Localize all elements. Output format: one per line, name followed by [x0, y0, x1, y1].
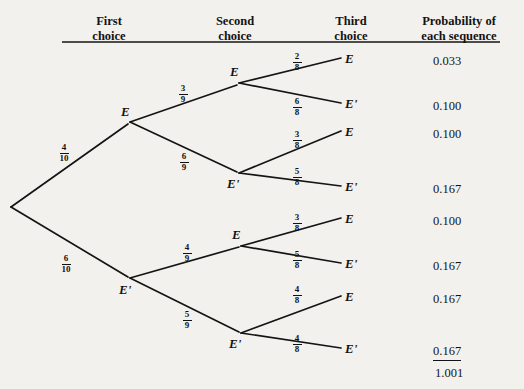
frac-third-1: 28 [288, 52, 306, 72]
column-header-1: First choice [78, 14, 140, 44]
frac-third-6: 58 [288, 250, 306, 270]
frac-third-4-numerator: 5 [288, 167, 306, 177]
frac-second-EEnot-numerator: 6 [175, 152, 193, 162]
frac-second-EnotEnot: 59 [178, 310, 196, 330]
frac-third-7-denominator: 8 [288, 296, 306, 306]
frac-second-EEnot-denominator: 9 [175, 163, 193, 173]
leaf-7: E [345, 289, 354, 305]
frac-first-Enot-denominator: 10 [57, 265, 75, 275]
leaf-3: E [345, 124, 354, 140]
frac-second-EEnot: 69 [175, 152, 193, 172]
node-label-first-E: E [121, 104, 130, 120]
frac-third-3-numerator: 3 [288, 130, 306, 140]
edge-root-E [11, 124, 128, 207]
prob-8: 0.167 [433, 344, 461, 361]
frac-third-8-numerator: 4 [288, 334, 306, 344]
frac-second-EE: 39 [174, 84, 192, 104]
frac-third-2-numerator: 6 [288, 97, 306, 107]
node-label-second-EnotEnot: E' [229, 336, 241, 352]
prob-6: 0.167 [433, 259, 461, 274]
frac-third-8-denominator: 8 [288, 345, 306, 355]
node-label-second-EnotE: E [232, 227, 241, 243]
frac-second-EE-denominator: 9 [174, 95, 192, 105]
leaf-1: E [345, 51, 354, 67]
node-label-second-EE: E [230, 64, 239, 80]
frac-first-Enot: 610 [57, 254, 75, 274]
frac-second-EnotEnot-denominator: 9 [178, 321, 196, 331]
probability-tree-diagram: First choiceSecond choiceThird choicePro… [0, 0, 524, 389]
frac-second-EnotE-denominator: 9 [178, 254, 196, 264]
frac-third-6-numerator: 5 [288, 250, 306, 260]
frac-third-3: 38 [288, 130, 306, 150]
node-label-first-Enot: E' [119, 282, 131, 298]
frac-third-7-numerator: 4 [288, 285, 306, 295]
leaf-2: E' [345, 96, 357, 112]
frac-third-6-denominator: 8 [288, 261, 306, 271]
frac-third-3-denominator: 8 [288, 141, 306, 151]
prob-4: 0.167 [433, 182, 461, 197]
frac-second-EE-numerator: 3 [174, 84, 192, 94]
frac-third-2-denominator: 8 [288, 108, 306, 118]
frac-first-Enot-numerator: 6 [57, 254, 75, 264]
node-label-second-EEnot: E' [227, 176, 239, 192]
column-header-3: Third choice [320, 14, 382, 44]
prob-7: 0.167 [433, 292, 461, 307]
frac-first-E-numerator: 4 [55, 143, 73, 153]
frac-third-8: 48 [288, 334, 306, 354]
frac-third-5-denominator: 8 [288, 224, 306, 234]
frac-first-E: 410 [55, 143, 73, 163]
frac-third-7: 48 [288, 285, 306, 305]
frac-third-1-numerator: 2 [288, 52, 306, 62]
column-header-2: Second choice [198, 14, 272, 44]
leaf-4: E' [345, 179, 357, 195]
column-header-4: Probability of each sequence [404, 14, 514, 44]
frac-third-4: 58 [288, 167, 306, 187]
prob-5: 0.100 [433, 214, 461, 229]
leaf-8: E' [345, 341, 357, 357]
probability-total: 1.001 [435, 366, 463, 381]
frac-second-EnotE-numerator: 4 [178, 243, 196, 253]
frac-third-4-denominator: 8 [288, 178, 306, 188]
prob-1: 0.033 [433, 54, 461, 69]
frac-third-5: 38 [288, 213, 306, 233]
frac-second-EnotEnot-numerator: 5 [178, 310, 196, 320]
prob-2: 0.100 [433, 99, 461, 114]
frac-third-2: 68 [288, 97, 306, 117]
frac-second-EnotE: 49 [178, 243, 196, 263]
frac-third-5-numerator: 3 [288, 213, 306, 223]
frac-third-1-denominator: 8 [288, 63, 306, 73]
leaf-6: E' [345, 256, 357, 272]
prob-3: 0.100 [433, 127, 461, 142]
leaf-5: E [345, 211, 354, 227]
frac-first-E-denominator: 10 [55, 154, 73, 164]
